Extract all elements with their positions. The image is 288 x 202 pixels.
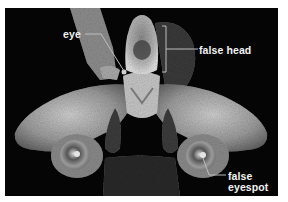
label-false-eyespot: false eyespot bbox=[228, 171, 268, 193]
real-eye bbox=[122, 70, 127, 75]
photo-frame: eye false head false eyespot bbox=[5, 8, 278, 196]
thorax bbox=[123, 72, 160, 118]
label-eye: eye bbox=[63, 29, 81, 40]
label-false-eyespot-line2: eyespot bbox=[228, 182, 268, 193]
label-false-head: false head bbox=[199, 45, 251, 56]
lanternfly-photo bbox=[5, 8, 278, 196]
